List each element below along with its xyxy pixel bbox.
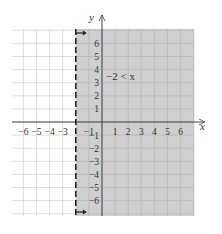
y-tick-label: 2 — [94, 91, 99, 101]
x-tick-label: 3 — [139, 127, 144, 137]
x-tick-label: 4 — [152, 127, 157, 137]
y-tick-label: −1 — [89, 131, 99, 141]
x-tick-label: 6 — [178, 127, 183, 137]
y-tick-label: −3 — [89, 157, 99, 167]
y-tick-label: 6 — [94, 39, 99, 49]
y-axis-label: y — [88, 11, 94, 23]
y-tick-label: −5 — [89, 183, 99, 193]
inequality-annotation: −2 < x — [106, 70, 135, 82]
y-tick-label: 4 — [94, 65, 99, 75]
y-tick-label: 1 — [94, 104, 99, 114]
x-tick-label: −4 — [45, 127, 55, 137]
x-tick-label: 1 — [113, 127, 118, 137]
x-tick-label: −6 — [18, 127, 28, 137]
x-tick-label: −5 — [31, 127, 41, 137]
x-tick-label: 5 — [165, 127, 170, 137]
y-tick-label: −6 — [89, 196, 99, 206]
x-tick-label: 2 — [126, 127, 131, 137]
y-tick-label: −2 — [89, 144, 99, 154]
inequality-graph: −6−5−4−3−1123456654321−1−2−3−4−5−6 x y −… — [0, 0, 222, 234]
x-axis-label: x — [199, 120, 205, 132]
x-tick-label: −3 — [58, 127, 68, 137]
y-tick-label: 5 — [94, 52, 99, 62]
y-tick-label: −4 — [89, 170, 99, 180]
y-tick-label: 3 — [94, 78, 99, 88]
